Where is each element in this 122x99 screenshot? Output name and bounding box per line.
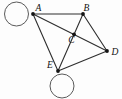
node-label-E: E (46, 60, 53, 70)
node-A (31, 12, 35, 16)
node-D (105, 49, 109, 53)
edge-A-E (33, 14, 58, 71)
graph-canvas: ABCDE (0, 0, 122, 99)
node-label-A: A (35, 3, 42, 13)
node-E (56, 69, 60, 73)
node-label-B: B (84, 3, 90, 13)
self-loop-E (50, 74, 74, 98)
graph-diagram: ABCDE (0, 0, 122, 99)
self-loop-A (5, 2, 29, 26)
edge-A-D (33, 14, 107, 51)
node-label-C: C (68, 35, 75, 45)
node-label-D: D (111, 47, 119, 57)
